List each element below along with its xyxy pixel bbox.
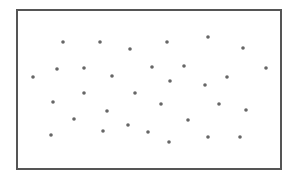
data-point — [146, 130, 150, 134]
data-point — [244, 108, 248, 112]
data-point — [182, 64, 186, 68]
data-point — [206, 35, 210, 39]
data-point — [110, 74, 114, 78]
scatter-plot — [0, 0, 294, 182]
data-point — [217, 102, 221, 106]
data-points — [31, 35, 268, 144]
data-point — [238, 135, 242, 139]
data-point — [101, 129, 105, 133]
data-point — [105, 109, 109, 113]
data-point — [159, 102, 163, 106]
data-point — [264, 66, 268, 70]
data-point — [61, 40, 65, 44]
data-point — [241, 46, 245, 50]
data-point — [168, 79, 172, 83]
data-point — [203, 83, 207, 87]
data-point — [49, 133, 53, 137]
data-point — [82, 66, 86, 70]
data-point — [206, 135, 210, 139]
data-point — [128, 47, 132, 51]
data-point — [98, 40, 102, 44]
data-point — [150, 65, 154, 69]
data-point — [126, 123, 130, 127]
data-point — [186, 118, 190, 122]
data-point — [72, 117, 76, 121]
data-point — [82, 91, 86, 95]
plot-frame — [17, 10, 281, 169]
data-point — [31, 75, 35, 79]
data-point — [55, 67, 59, 71]
data-point — [165, 40, 169, 44]
data-point — [167, 140, 171, 144]
data-point — [225, 75, 229, 79]
data-point — [133, 91, 137, 95]
data-point — [51, 100, 55, 104]
